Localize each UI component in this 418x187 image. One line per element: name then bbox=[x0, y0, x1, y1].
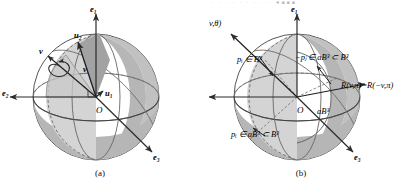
figure-container: · · · · · · · · ··◄■■■ bbox=[0, 0, 418, 187]
label-u1-a: u₁ bbox=[105, 88, 113, 98]
label-e3-b: e₃ bbox=[354, 152, 361, 162]
label-origin-b: O bbox=[297, 105, 304, 115]
label-e3-a: e₃ bbox=[153, 152, 160, 162]
label-pi-in-ball-b: pᵢ ∈ B³ bbox=[236, 54, 262, 64]
label-e2-a: e₂ bbox=[2, 88, 9, 98]
label-e1-a: e₁ bbox=[90, 4, 97, 14]
caption-panel-b: (b) bbox=[281, 168, 321, 178]
label-antipodal-identity-b: R(v,π)=R(−v,π) bbox=[340, 80, 393, 90]
label-origin-a: O bbox=[96, 105, 103, 115]
panel-a-diagram: e₁ e₂ e₃ O u₁ u₂ v v bbox=[0, 0, 209, 187]
label-neg-pj-b: −pⱼ ∈ aB³ ⊂ B³ bbox=[295, 52, 349, 62]
label-R-v-theta-b: R(v,θ) bbox=[209, 18, 221, 28]
label-v-a: v bbox=[83, 64, 87, 74]
panel-b-diagram: e₁ e₂ e₃ O R(v,θ) pᵢ ∈ B³ −pⱼ ∈ aB³ ⊂ B³… bbox=[209, 0, 418, 187]
label-inner-ball-b: aB³ bbox=[317, 106, 329, 116]
caption-panel-a: (a) bbox=[80, 168, 120, 178]
label-u2-a: u₂ bbox=[74, 30, 82, 40]
label-v-axis-a: v bbox=[39, 46, 43, 56]
label-pi-in-aball-b: pᵢ ∈ aB³ ⊂ B³ bbox=[230, 129, 279, 139]
label-e1-b: e₁ bbox=[291, 4, 298, 14]
